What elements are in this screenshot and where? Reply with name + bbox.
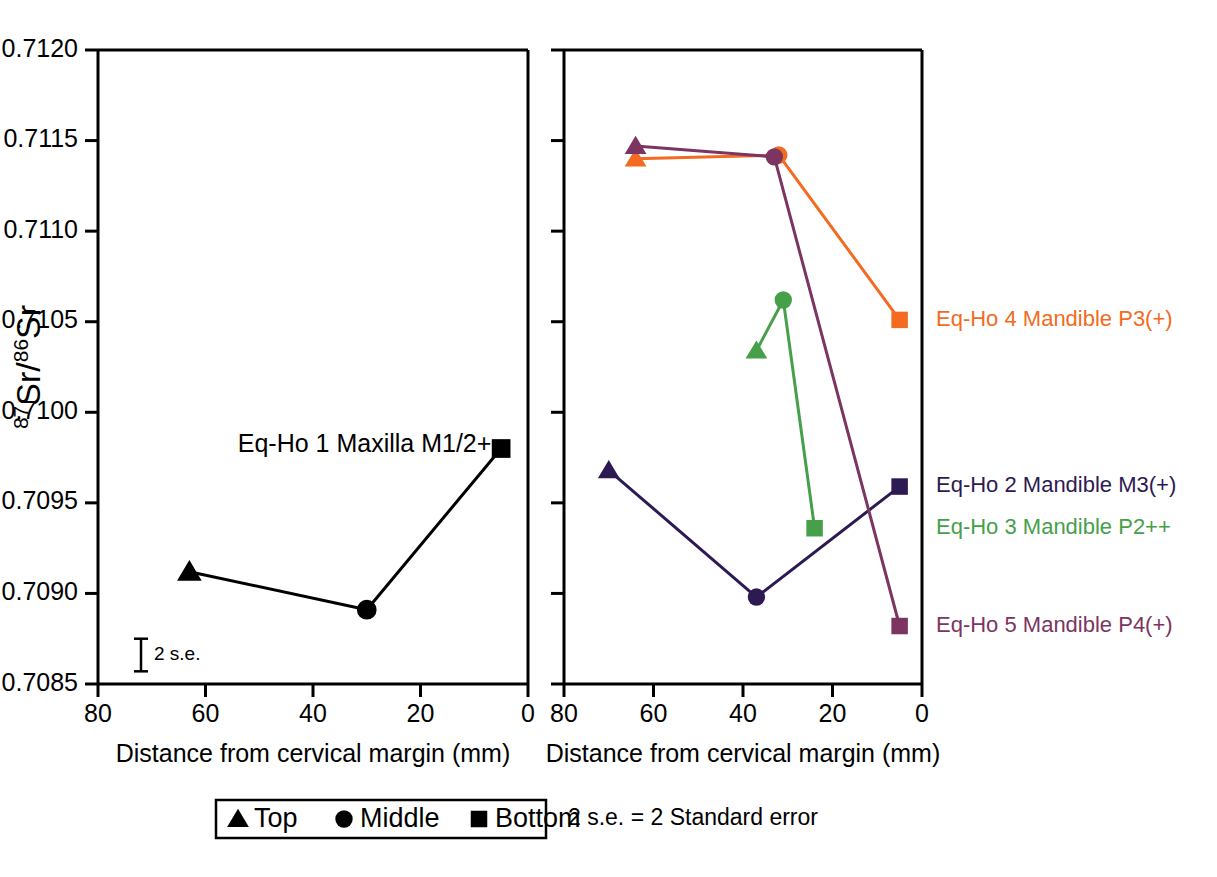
legend-marker-top <box>227 809 249 827</box>
left-panel-group: 0.70850.70900.70950.71000.71050.71100.71… <box>2 34 535 767</box>
yaxis-sup-86: 86 <box>9 339 32 362</box>
series-line <box>636 146 900 626</box>
error-bar-label: 2 s.e. <box>154 643 200 664</box>
yaxis-base-sr2: Sr <box>9 305 47 339</box>
series-label: Eq-Ho 3 Mandible P2++ <box>936 514 1171 539</box>
xtick-label: 60 <box>192 699 220 727</box>
yaxis-sup-87: 87 <box>9 406 32 429</box>
series-point-middle <box>775 291 792 308</box>
series-point-middle <box>357 600 377 620</box>
xtick-label: 40 <box>299 699 327 727</box>
series-line <box>189 449 501 610</box>
xtick-label: 20 <box>407 699 435 727</box>
legend-label-middle: Middle <box>360 803 440 833</box>
strontium-isotope-figure: 0.70850.70900.70950.71000.71050.71100.71… <box>0 0 1217 877</box>
xtick-label: 0 <box>915 699 929 727</box>
series-point-bottom <box>891 478 908 495</box>
series-point-top <box>177 560 202 581</box>
ytick-label: 0.7095 <box>2 486 78 514</box>
left-panel-xaxis-title: Distance from cervical margin (mm) <box>116 739 511 767</box>
series-line <box>609 470 900 597</box>
legend-marker-bottom <box>471 811 488 828</box>
series-line <box>636 155 900 320</box>
ytick-label: 0.7090 <box>2 577 78 605</box>
right-panel-data: Eq-Ho 4 Mandible P3(+)Eq-Ho 2 Mandible M… <box>598 136 1176 637</box>
ytick-label: 0.7085 <box>2 668 78 696</box>
series-point-bottom <box>891 618 908 635</box>
xtick-label: 80 <box>550 699 578 727</box>
right-panel-xaxis-title: Distance from cervical margin (mm) <box>546 739 941 767</box>
series-point-middle <box>766 148 783 165</box>
series-point-bottom <box>891 312 908 329</box>
xtick-label: 60 <box>640 699 668 727</box>
xtick-label: 20 <box>819 699 847 727</box>
chart-canvas: 0.70850.70900.70950.71000.71050.71100.71… <box>0 0 1217 877</box>
series-point-top <box>598 460 620 478</box>
series-point-top <box>746 340 768 358</box>
xtick-label: 0 <box>521 699 535 727</box>
legend: TopMiddleBottom <box>216 800 581 838</box>
series-label: Eq-Ho 2 Mandible M3(+) <box>936 472 1176 497</box>
ytick-label: 0.7110 <box>3 215 78 243</box>
ytick-label: 0.7120 <box>2 34 78 62</box>
xtick-label: 80 <box>84 699 112 727</box>
series-point-bottom <box>806 520 823 537</box>
footnote: 2 s.e. = 2 Standard error <box>568 804 818 830</box>
left-panel-data: Eq-Ho 1 Maxilla M1/2+2 s.e. <box>134 429 510 672</box>
series-point-middle <box>748 588 765 605</box>
series-line <box>756 300 814 528</box>
series-label: Eq-Ho 4 Mandible P3(+) <box>936 306 1173 331</box>
right-panel-group: 806040200Distance from cervical margin (… <box>546 50 941 767</box>
series-point-bottom <box>492 439 511 458</box>
xtick-label: 40 <box>729 699 757 727</box>
yaxis-base-sr1: Sr/ <box>9 362 47 406</box>
panel-annotation: Eq-Ho 1 Maxilla M1/2+ <box>238 429 492 457</box>
ytick-label: 0.7115 <box>3 124 78 152</box>
series-label: Eq-Ho 5 Mandible P4(+) <box>936 612 1173 637</box>
legend-label-top: Top <box>254 803 298 833</box>
series-point-top <box>625 136 647 154</box>
legend-marker-middle <box>335 810 352 827</box>
